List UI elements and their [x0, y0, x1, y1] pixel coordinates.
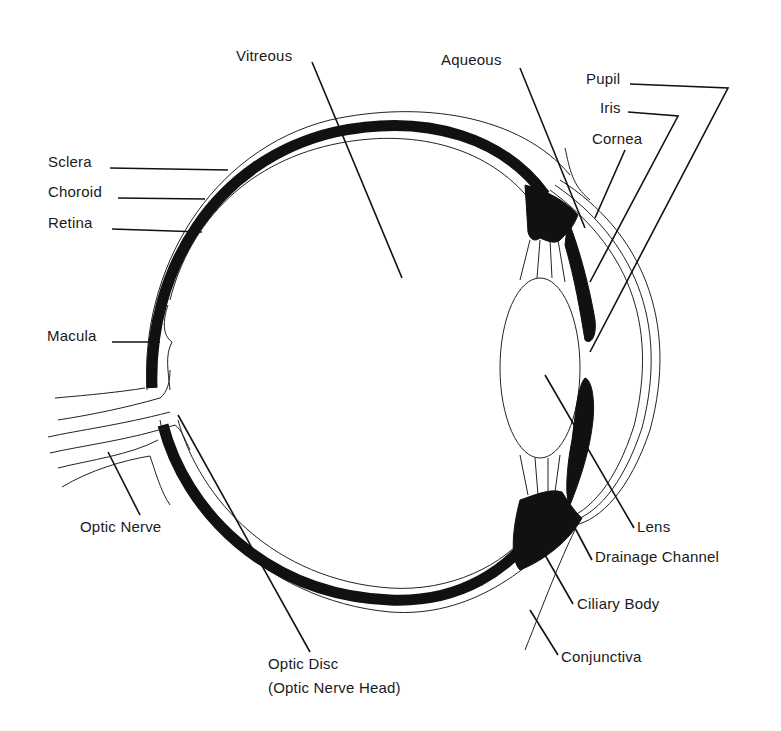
label-conjunctiva: Conjunctiva [561, 648, 642, 665]
iris-bottom [567, 378, 594, 505]
label-optic-nerve: Optic Nerve [80, 518, 161, 535]
label-choroid: Choroid [48, 183, 102, 200]
label-sclera: Sclera [48, 153, 92, 170]
label-ciliary-body: Ciliary Body [577, 595, 660, 612]
label-retina: Retina [48, 214, 93, 231]
zonule-fibers-bottom [520, 455, 560, 495]
choroid-band [152, 126, 545, 601]
label-pupil: Pupil [586, 70, 620, 87]
label-drainage-channel: Drainage Channel [595, 548, 719, 565]
label-aqueous: Aqueous [441, 51, 502, 68]
sclera-outline [147, 112, 575, 613]
label-optic-disc: Optic Disc [268, 655, 339, 672]
label-optic-disc-sub: (Optic Nerve Head) [268, 679, 401, 696]
label-vitreous: Vitreous [236, 47, 292, 64]
zonule-fibers-top [520, 240, 565, 282]
label-lens: Lens [637, 518, 670, 535]
eye-anatomy-diagram: Vitreous Aqueous Pupil Iris Cornea Scler… [0, 0, 781, 731]
leader-lines [108, 62, 728, 655]
label-macula: Macula [47, 327, 97, 344]
label-cornea: Cornea [592, 130, 643, 147]
lens-shape [500, 278, 580, 458]
label-iris: Iris [600, 99, 621, 116]
